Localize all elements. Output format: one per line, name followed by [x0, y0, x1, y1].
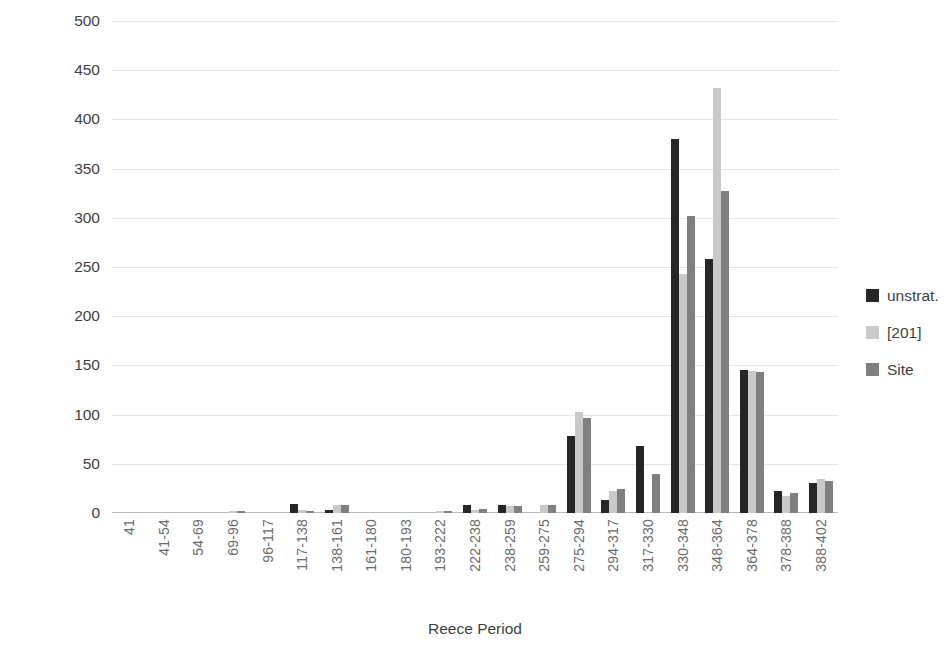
- x-axis-tick: 364-378: [744, 519, 760, 572]
- y-axis-tick: 250: [34, 258, 100, 276]
- bar-group: [319, 21, 354, 513]
- bar: [567, 436, 575, 513]
- bar-group: [285, 21, 320, 513]
- x-axis-title: Reece Period: [112, 620, 838, 638]
- x-axis-tick: 378-388: [778, 519, 794, 572]
- bar-group: [216, 21, 251, 513]
- x-axis-tick-cell: 238-259: [492, 519, 527, 615]
- bar-group: [250, 21, 285, 513]
- legend-swatch-icon: [866, 289, 879, 302]
- bar-group: [734, 21, 769, 513]
- x-axis-tick: 388-402: [813, 519, 829, 572]
- bar: [540, 505, 548, 513]
- bar: [548, 505, 556, 513]
- bar-group: [458, 21, 493, 513]
- bar-group: [527, 21, 562, 513]
- x-axis-tick-cell: 317-330: [631, 519, 666, 615]
- bar-group: [804, 21, 839, 513]
- x-axis-tick: 330-348: [675, 519, 691, 572]
- bar-group: [562, 21, 597, 513]
- bar: [825, 481, 833, 513]
- x-axis-tick-cell: 378-388: [769, 519, 804, 615]
- bar: [514, 506, 522, 513]
- bar: [721, 191, 729, 513]
- bar: [705, 259, 713, 513]
- bar: [756, 372, 764, 513]
- x-axis-tick-cell: 117-138: [285, 519, 320, 615]
- bar: [341, 505, 349, 513]
- bar: [679, 274, 687, 513]
- bar: [471, 510, 479, 513]
- y-axis-tick: 400: [34, 110, 100, 128]
- y-axis-tick: 300: [34, 209, 100, 227]
- bar: [609, 491, 617, 513]
- x-axis-tick: 275-294: [571, 519, 587, 572]
- y-axis-tick: 0: [34, 504, 100, 522]
- x-axis-tick-cell: 330-348: [665, 519, 700, 615]
- x-axis-tick-cell: 388-402: [804, 519, 839, 615]
- bar: [436, 511, 444, 513]
- y-axis-tick: 150: [34, 356, 100, 374]
- legend-item[interactable]: unstrat.: [866, 277, 950, 314]
- x-axis-tick: 41-54: [156, 519, 172, 556]
- x-axis-tick-cell: 96-117: [250, 519, 285, 615]
- bar: [748, 371, 756, 513]
- bar: [325, 510, 333, 513]
- x-axis-tick-cell: 41-54: [147, 519, 182, 615]
- x-axis-tick: 138-161: [329, 519, 345, 572]
- x-axis-tick-labels: 4141-5454-6969-9696-117117-138138-161161…: [112, 519, 838, 615]
- x-axis-tick: 348-364: [709, 519, 725, 572]
- y-axis-tick: 450: [34, 61, 100, 79]
- bar-group: [147, 21, 182, 513]
- x-axis-tick-cell: 259-275: [527, 519, 562, 615]
- bar: [583, 418, 591, 513]
- bar: [601, 500, 609, 513]
- bar-group: [700, 21, 735, 513]
- bar-group: [665, 21, 700, 513]
- bar-group: [596, 21, 631, 513]
- bar-chart: % per mills 5004504003503002502001501005…: [0, 0, 950, 647]
- y-axis-tick: 200: [34, 307, 100, 325]
- bar: [809, 483, 817, 513]
- bar: [229, 511, 237, 513]
- bar: [713, 88, 721, 513]
- bar: [479, 509, 487, 513]
- bar-group: [181, 21, 216, 513]
- x-axis-tick: 161-180: [363, 519, 379, 572]
- x-axis-tick-cell: 161-180: [354, 519, 389, 615]
- x-axis-tick: 54-69: [190, 519, 206, 556]
- x-axis-tick: 69-96: [225, 519, 241, 556]
- bar: [671, 139, 679, 513]
- legend-item[interactable]: [201]: [866, 314, 950, 351]
- x-axis-tick: 117-138: [294, 519, 310, 571]
- legend: unstrat.[201]Site: [866, 277, 950, 388]
- legend-label: Site: [887, 361, 914, 379]
- bar-group: [492, 21, 527, 513]
- y-axis-tick: 100: [34, 406, 100, 424]
- bar-group: [389, 21, 424, 513]
- y-axis-tick: 350: [34, 160, 100, 178]
- x-axis-tick-cell: 348-364: [700, 519, 735, 615]
- x-axis-tick-cell: 275-294: [562, 519, 597, 615]
- bar-group: [423, 21, 458, 513]
- x-axis-tick: 259-275: [536, 519, 552, 572]
- legend-swatch-icon: [866, 326, 879, 339]
- x-axis-tick-cell: 41: [112, 519, 147, 615]
- bar: [290, 504, 298, 513]
- legend-label: [201]: [887, 324, 921, 342]
- y-axis-tick: 50: [34, 455, 100, 473]
- bar: [444, 511, 452, 513]
- bar: [817, 479, 825, 513]
- bar: [306, 511, 314, 513]
- bar: [740, 370, 748, 513]
- x-axis-tick-cell: 54-69: [181, 519, 216, 615]
- bar: [498, 505, 506, 513]
- x-axis-tick: 193-222: [432, 519, 448, 572]
- bar: [237, 511, 245, 513]
- bar-group: [354, 21, 389, 513]
- bar: [687, 216, 695, 513]
- bar: [652, 474, 660, 513]
- bar: [298, 510, 306, 513]
- legend-item[interactable]: Site: [866, 351, 950, 388]
- x-axis-tick: 41: [121, 519, 137, 535]
